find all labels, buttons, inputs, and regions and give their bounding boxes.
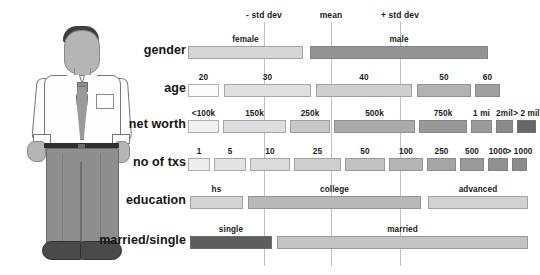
bar-segment	[190, 196, 243, 209]
trouser-crease-left	[62, 154, 63, 246]
bar-segment	[250, 158, 290, 171]
segment-label: hs	[212, 185, 222, 194]
row-label-net-worth: net worth	[129, 117, 186, 131]
reference-line-label: - std dev	[246, 10, 282, 20]
bar-segment	[223, 120, 286, 133]
row-label-gender: gender	[144, 43, 186, 57]
row-label-education: education	[126, 193, 186, 207]
bar-segment	[428, 196, 528, 209]
bar-segment	[427, 158, 456, 171]
segment-label: 1000	[489, 147, 508, 156]
bar-segment	[316, 84, 412, 97]
segment-label: 250	[435, 147, 449, 156]
bar-segment	[512, 158, 527, 171]
bar-segment	[471, 120, 492, 133]
bar-segment	[475, 84, 500, 97]
segment-label: 100	[399, 147, 413, 156]
bar-segment	[190, 236, 272, 249]
bar-segment	[188, 46, 303, 59]
bar-segment	[310, 46, 488, 59]
male-person-illustration	[22, 12, 140, 270]
bar-segment	[290, 120, 330, 133]
left-shoe-shape	[42, 241, 84, 260]
segment-label: > 1000	[507, 147, 533, 156]
segment-label: 500k	[365, 109, 384, 118]
shirt-pocket-shape	[96, 94, 114, 109]
segment-label: 2mil	[496, 109, 513, 118]
segment-label: 150k	[245, 109, 264, 118]
segment-label: 50	[360, 147, 369, 156]
segment-label: 60	[483, 73, 492, 82]
bar-segment	[224, 84, 311, 97]
segment-label: 30	[263, 73, 272, 82]
segment-label: <100k	[192, 109, 216, 118]
bar-segment	[294, 158, 341, 171]
bar-segment	[188, 158, 210, 171]
row-label-married-single: married/single	[99, 233, 186, 247]
bar-segment	[460, 158, 484, 171]
segment-label: 1 mi	[473, 109, 490, 118]
segment-label: 20	[199, 73, 208, 82]
segment-label: college	[320, 185, 349, 194]
row-label-age: age	[164, 81, 186, 95]
row-label-no-of-txs: no of txs	[133, 155, 186, 169]
bar-segment	[419, 120, 467, 133]
segment-label: 40	[359, 73, 368, 82]
reference-line-label: + std dev	[381, 10, 419, 20]
bar-segment	[345, 158, 385, 171]
segment-label: 10	[265, 147, 274, 156]
segment-label: 1	[197, 147, 202, 156]
bar-segment	[214, 158, 246, 171]
bar-segment	[488, 158, 508, 171]
segment-label: female	[232, 35, 259, 44]
bar-segment	[496, 120, 513, 133]
bar-segment	[188, 120, 219, 133]
segment-label: 250k	[301, 109, 320, 118]
bar-segment	[277, 236, 528, 249]
trouser-leg-split	[80, 162, 82, 248]
segment-label: male	[389, 35, 408, 44]
bar-segment	[248, 196, 421, 209]
segment-label: 25	[313, 147, 322, 156]
segment-label: 500	[465, 147, 479, 156]
segment-label: > 2 mil	[513, 109, 539, 118]
bar-segment	[334, 120, 415, 133]
segment-label: 750k	[434, 109, 453, 118]
bar-segment	[417, 84, 471, 97]
segment-label: advanced	[459, 185, 498, 194]
segment-label: married	[387, 225, 418, 234]
segment-label: single	[219, 225, 243, 234]
reference-line-label: mean	[320, 10, 343, 20]
bar-segment	[517, 120, 536, 133]
segment-label: 5	[228, 147, 233, 156]
bar-segment	[188, 84, 219, 97]
segment-label: 50	[439, 73, 448, 82]
bar-segment	[389, 158, 423, 171]
